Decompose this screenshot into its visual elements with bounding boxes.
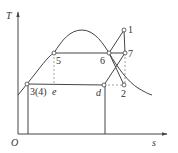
point-6: [107, 51, 111, 55]
label-5: 5: [56, 55, 61, 66]
label-1: 1: [128, 24, 133, 35]
point-d: [102, 83, 106, 87]
point-3: [25, 82, 29, 86]
axes: [18, 12, 167, 134]
y-axis-label: T: [6, 10, 13, 21]
point-1: [122, 28, 126, 32]
x-axis-label: s: [152, 137, 156, 148]
origin-label: O: [11, 137, 18, 148]
label-7: 7: [128, 48, 133, 59]
point-2: [122, 83, 126, 87]
point-7: [123, 51, 127, 55]
label-2: 2: [121, 88, 126, 99]
t-s-diagram: T s O 1 2 3(4) 5 6 7 d e: [0, 0, 178, 153]
label-d: d: [96, 87, 102, 98]
label-3: 3(4): [30, 86, 47, 98]
label-6: 6: [100, 55, 105, 66]
cycle-lines: [27, 30, 125, 134]
label-e: e: [52, 86, 57, 97]
